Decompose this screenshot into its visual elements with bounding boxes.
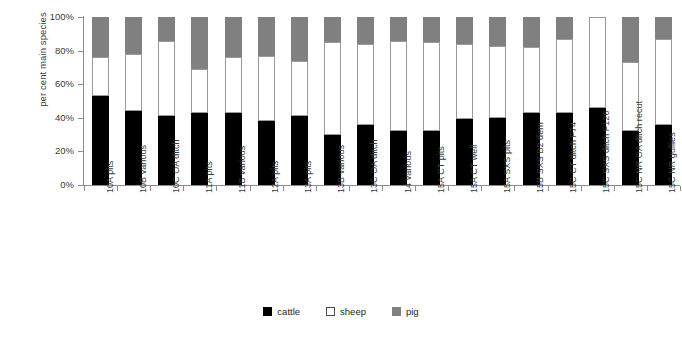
bar-segment-pig (125, 17, 142, 54)
bar-segment-pig (456, 17, 473, 44)
x-axis-label: 10A pits (105, 161, 115, 193)
x-axis-label: 11A pits (204, 161, 214, 193)
stacked-bar-chart: per cent main species 0%20%40%60%80%100%… (0, 0, 682, 339)
y-axis-title: per cent main species (37, 0, 48, 150)
x-axis-tick (250, 186, 251, 191)
bar-segment-sheep (556, 39, 573, 113)
x-axis-tick (548, 186, 549, 191)
x-axis-label: 15A SXS pits (502, 140, 512, 193)
x-axis-label: 15C SXS ditch F126 (601, 111, 611, 193)
x-axis-label: 13C OA ditch (369, 139, 379, 193)
y-axis-tick-label: 80% (4, 46, 74, 56)
x-axis-tick (316, 186, 317, 191)
bar-segment-sheep (655, 39, 672, 125)
x-axis-tick (84, 186, 85, 191)
bar-segment-sheep (423, 42, 440, 131)
bar-segment-pig (158, 17, 175, 41)
x-axis-label: 10B various (138, 145, 148, 193)
x-axis-label: 12A pits (270, 161, 280, 193)
x-axis-tick (581, 186, 582, 191)
bar-segment-pig (258, 17, 275, 56)
bar-segment-sheep (390, 41, 407, 132)
x-axis-label: 15C CT ditch F74 (568, 122, 578, 193)
x-axis-label: 10C OA ditch (171, 139, 181, 193)
bar-segment-pig (291, 17, 308, 61)
x-axis-tick (283, 186, 284, 191)
bar-segment-pig (622, 17, 639, 62)
x-axis-label: 14 various (403, 151, 413, 193)
y-axis-tick-label: 40% (4, 113, 74, 123)
bar-segment-pig (357, 17, 374, 44)
bar-segment-sheep (489, 46, 506, 118)
x-axis-tick (614, 186, 615, 191)
bar-segment-sheep (191, 69, 208, 113)
x-axis-tick (647, 186, 648, 191)
x-axis-tick (382, 186, 383, 191)
x-axis-label: 15A CT well (469, 145, 479, 193)
bar-segment-sheep (456, 44, 473, 120)
bar-segment-sheep (125, 54, 142, 111)
bar-segment-sheep (324, 42, 341, 134)
x-axis-tick (481, 186, 482, 191)
bar-segment-sheep (523, 47, 540, 113)
bar-segment-sheep (291, 61, 308, 116)
bar-segment-sheep (589, 17, 606, 108)
x-axis-label: 13A pits (303, 161, 313, 193)
legend-item-label: cattle (277, 306, 300, 317)
bar-segment-pig (324, 17, 341, 42)
x-axis-label: 15B SXS B2 dem (535, 122, 545, 193)
bar-segment-pig (489, 17, 506, 46)
bar-segment-pig (655, 17, 672, 39)
x-axis-label: 11B various (237, 146, 247, 193)
x-axis-tick (448, 186, 449, 191)
x-axis-tick (183, 186, 184, 191)
legend-item-label: sheep (340, 306, 366, 317)
chart-legend: cattlesheeppig (0, 306, 682, 317)
legend-item-sheep: sheep (326, 306, 366, 317)
bar-segment-sheep (92, 57, 109, 96)
cattle-swatch (263, 307, 272, 316)
y-axis-tick-label: 20% (4, 146, 74, 156)
x-axis-tick (117, 186, 118, 191)
pig-swatch (392, 307, 401, 316)
x-axis-label: 15C NR gullies (667, 132, 677, 193)
bar-segment-pig (556, 17, 573, 39)
x-axis-tick (415, 186, 416, 191)
y-axis-tick-label: 60% (4, 79, 74, 89)
x-axis-tick (514, 186, 515, 191)
bar-segment-sheep (258, 56, 275, 122)
bar-segment-sheep (158, 41, 175, 117)
sheep-swatch (326, 307, 335, 316)
bar-segment-pig (423, 17, 440, 42)
y-axis-tick-label: 0% (4, 180, 74, 190)
bar-segment-pig (92, 17, 109, 57)
x-axis-label: 15C NR OA ditch recut (634, 101, 644, 193)
x-axis-label: 13B various (336, 145, 346, 193)
legend-item-pig: pig (392, 306, 419, 317)
y-axis-tick-label: 100% (4, 12, 74, 22)
legend-item-cattle: cattle (263, 306, 300, 317)
legend-item-label: pig (406, 306, 419, 317)
x-axis-tick (680, 186, 681, 191)
bar-segment-pig (191, 17, 208, 69)
bar-segment-pig (523, 17, 540, 47)
x-axis-tick (216, 186, 217, 191)
x-axis-label: 15A CT pits (436, 146, 446, 193)
bar-segment-sheep (225, 57, 242, 112)
bar-stack (191, 17, 208, 185)
bar-segment-pig (225, 17, 242, 57)
bar-segment-sheep (357, 44, 374, 125)
x-axis-tick (150, 186, 151, 191)
bar-segment-pig (390, 17, 407, 41)
x-axis-tick (349, 186, 350, 191)
